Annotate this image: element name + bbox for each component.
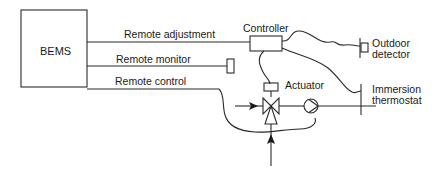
immersion-thermostat-label-line1: Immersion [372,84,421,95]
outdoor-detector-box [361,43,368,52]
immersion-thermostat-label-line2: thermostat [372,95,422,106]
remote-adjustment-label: Remote adjustment [124,29,215,40]
actuator-label: Actuator [285,80,324,91]
outdoor-detector-label-line2: detector [372,49,410,60]
actuator-wire [259,51,270,84]
outdoor-detector-wire [282,31,360,46]
remote-monitor-device [227,59,234,73]
outdoor-detector-label-line1: Outdoor [372,38,410,49]
controller-label: Controller [243,23,289,34]
controller-box [250,36,282,51]
bems-label: BEMS [40,46,71,57]
three-way-valve [263,98,279,124]
remote-monitor-label: Remote monitor [116,54,191,65]
actuator-box [264,83,278,91]
remote-control-line [87,89,315,132]
remote-control-label: Remote control [115,76,186,87]
